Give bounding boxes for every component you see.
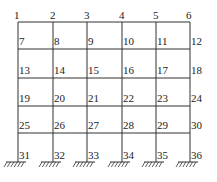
hatch-line: [179, 162, 182, 167]
node-label: 24: [191, 92, 203, 104]
node-label: 8: [54, 35, 60, 47]
hatch-line: [14, 162, 17, 167]
node-label: 1: [14, 9, 20, 21]
node-label: 20: [54, 92, 66, 104]
node-label: 11: [157, 35, 168, 47]
node-label: 21: [88, 92, 99, 104]
node-label: 7: [19, 35, 25, 47]
hatch-line: [90, 162, 93, 167]
node-label: 30: [191, 119, 203, 131]
node-label: 16: [123, 64, 135, 76]
hatch-line: [53, 162, 56, 167]
hatch-line: [125, 162, 128, 167]
node-label: 9: [88, 35, 94, 47]
hatch-line: [108, 162, 111, 167]
node-label: 26: [54, 119, 66, 131]
node-label: 25: [19, 119, 31, 131]
hatch-line: [46, 162, 49, 167]
node-label: 28: [123, 119, 135, 131]
hatch-line: [183, 162, 186, 167]
hatch-line: [190, 162, 193, 167]
hatch-line: [42, 162, 45, 167]
hatch-line: [122, 162, 125, 167]
hatch-line: [152, 162, 155, 167]
hatch-line: [39, 162, 42, 167]
hatch-line: [145, 162, 148, 167]
hatch-line: [7, 162, 10, 167]
node-label: 13: [19, 64, 31, 76]
node-label: 10: [123, 35, 135, 47]
frame-grid-svg: 1234567891011121314151617181920212223242…: [0, 0, 217, 182]
node-label: 36: [191, 149, 203, 161]
node-label: 27: [88, 119, 100, 131]
hatch-line: [4, 162, 7, 167]
hatch-line: [80, 162, 83, 167]
node-label: 12: [191, 35, 202, 47]
node-label: 5: [153, 9, 159, 21]
node-label: 17: [157, 64, 169, 76]
hatch-line: [176, 162, 179, 167]
hatch-line: [21, 162, 24, 167]
hatch-line: [76, 162, 79, 167]
frame-diagram: 1234567891011121314151617181920212223242…: [0, 0, 217, 182]
node-label: 3: [84, 9, 90, 21]
node-label: 32: [54, 149, 65, 161]
hatch-line: [11, 162, 14, 167]
node-label: 22: [123, 92, 134, 104]
hatch-line: [18, 162, 21, 167]
node-label: 33: [88, 149, 100, 161]
node-label: 6: [186, 9, 192, 21]
node-label: 18: [191, 64, 203, 76]
hatch-line: [159, 162, 162, 167]
node-label: 2: [50, 9, 56, 21]
node-label: 34: [123, 149, 135, 161]
hatch-line: [73, 162, 76, 167]
hatch-line: [149, 162, 152, 167]
hatch-line: [193, 162, 196, 167]
hatch-line: [83, 162, 86, 167]
hatch-line: [56, 162, 59, 167]
hatch-line: [111, 162, 114, 167]
node-label: 31: [19, 149, 30, 161]
node-label: 15: [88, 64, 100, 76]
hatch-line: [87, 162, 90, 167]
hatch-line: [156, 162, 159, 167]
hatch-line: [49, 162, 52, 167]
hatch-line: [115, 162, 118, 167]
hatch-line: [142, 162, 145, 167]
node-label: 4: [119, 9, 125, 21]
node-label: 14: [54, 64, 66, 76]
node-label: 29: [157, 119, 169, 131]
hatch-line: [186, 162, 189, 167]
node-label: 35: [157, 149, 169, 161]
node-label: 23: [157, 92, 169, 104]
node-label: 19: [19, 92, 31, 104]
hatch-line: [118, 162, 121, 167]
